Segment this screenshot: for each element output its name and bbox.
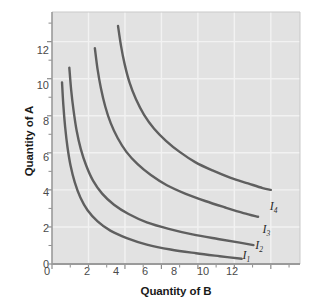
curve-label-i1: I1 [242, 248, 250, 264]
indifference-curve-chart: Quantity of A Quantity of B 0 2 4 6 8 10… [0, 0, 311, 308]
plot-area [0, 0, 311, 308]
curve-label-i3: I3 [262, 222, 270, 238]
curve-label-i2: I2 [255, 238, 263, 254]
curve-label-i4: I4 [270, 199, 278, 215]
